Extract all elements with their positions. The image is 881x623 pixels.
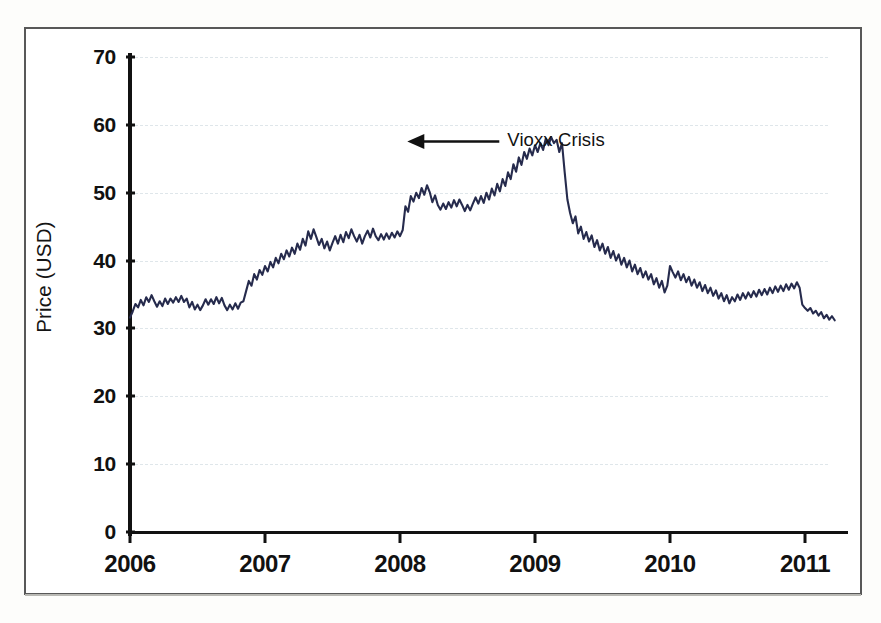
chart-page: Price (USD) 010203040506070 200620072008… xyxy=(0,0,881,623)
price-chart: Price (USD) 010203040506070 200620072008… xyxy=(24,27,862,595)
annotation-arrowhead xyxy=(407,134,424,149)
vioxx-crisis-arrow-icon xyxy=(24,27,862,595)
vioxx-crisis-annotation-label: Vioxx Crisis xyxy=(507,129,605,151)
